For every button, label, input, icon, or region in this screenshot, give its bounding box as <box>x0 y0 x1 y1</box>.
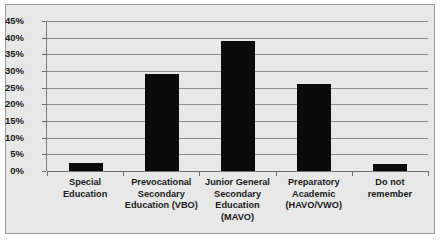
y-tick-label: 10% <box>0 133 24 143</box>
y-tick-label: 35% <box>0 50 24 60</box>
x-axis-label-line: Do not <box>353 177 427 189</box>
x-axis-label-line: Education (VBO) <box>124 200 198 212</box>
x-tick-mark <box>428 171 429 176</box>
y-tick-label: 40% <box>0 33 24 43</box>
y-tick-mark <box>42 154 46 155</box>
y-tick-label: 5% <box>0 150 24 160</box>
x-axis-label-line: Preparatory <box>277 177 351 189</box>
x-tick-mark <box>352 171 353 176</box>
x-axis-label-line: Education <box>200 200 274 212</box>
bar-slot <box>200 21 276 171</box>
y-tick-label: 30% <box>0 66 24 76</box>
x-tick-mark <box>199 171 200 176</box>
x-axis-label: PreparatoryAcademic(HAVO/VWO) <box>276 177 352 223</box>
x-axis-label-line: Education <box>48 189 122 201</box>
y-tick-mark <box>42 138 46 139</box>
chart-figure: 0%5%10%15%20%25%30%35%40%45% SpecialEduc… <box>5 4 435 234</box>
y-tick-label: 20% <box>0 100 24 110</box>
x-tick-mark <box>47 171 48 176</box>
y-tick-mark <box>42 171 46 172</box>
y-tick-mark <box>42 71 46 72</box>
bar-slot <box>276 21 352 171</box>
y-tick-label: 15% <box>0 116 24 126</box>
x-axis-label: Junior GeneralSecondaryEducation(MAVO) <box>199 177 275 223</box>
y-tick-mark <box>42 121 46 122</box>
gridline-0% <box>47 171 428 172</box>
x-axis-label-line: Academic <box>277 189 351 201</box>
y-tick-mark <box>42 38 46 39</box>
x-axis-label-line: (HAVO/VWO) <box>277 200 351 212</box>
bar-slot <box>124 21 200 171</box>
bar-slot <box>48 21 124 171</box>
y-tick-mark <box>42 88 46 89</box>
x-axis-label: PrevocationalSecondaryEducation (VBO) <box>123 177 199 223</box>
bar-slot <box>352 21 428 171</box>
bar-series <box>48 21 428 171</box>
plot-wrapper: 0%5%10%15%20%25%30%35%40%45% <box>46 21 428 171</box>
x-axis-label-line: Prevocational <box>124 177 198 189</box>
x-axis-label-line: remember <box>353 189 427 201</box>
y-tick-label: 25% <box>0 83 24 93</box>
y-tick-mark <box>42 54 46 55</box>
x-axis-label-line: Special <box>48 177 122 189</box>
bar[interactable] <box>297 84 332 171</box>
x-tick-mark <box>276 171 277 176</box>
bar[interactable] <box>373 164 408 171</box>
x-axis-label-line: Secondary <box>200 189 274 201</box>
x-axis-label-line: Secondary <box>124 189 198 201</box>
plot-area <box>46 21 428 171</box>
y-tick-label: 0% <box>0 166 24 176</box>
x-axis-label-line: Junior General <box>200 177 274 189</box>
x-axis-labels: SpecialEducationPrevocationalSecondaryEd… <box>47 177 428 223</box>
bar[interactable] <box>69 163 104 171</box>
x-axis-label: Do notremember <box>352 177 428 223</box>
y-tick-mark <box>42 21 46 22</box>
x-axis-label: SpecialEducation <box>47 177 123 223</box>
bar[interactable] <box>221 41 256 171</box>
bar[interactable] <box>145 74 180 171</box>
y-tick-label: 45% <box>0 16 24 26</box>
x-axis-label-line: (MAVO) <box>200 212 274 224</box>
y-tick-mark <box>42 104 46 105</box>
x-tick-mark <box>123 171 124 176</box>
